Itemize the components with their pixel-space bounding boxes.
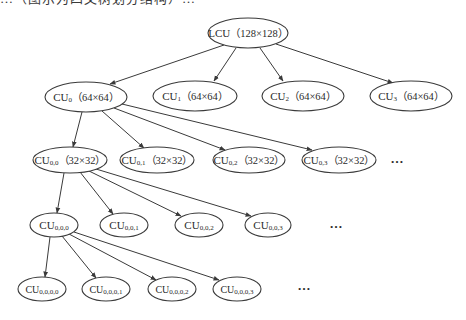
- node-label: CU2（64×64）: [270, 90, 336, 103]
- node-cu0002: CU0,0,0,2: [148, 277, 196, 301]
- edge-arrow-lcu-to-cu2: [260, 48, 283, 81]
- node-cu002: CU0,0,2: [175, 213, 223, 237]
- edge-arrow-cu000-to-cu0000: [45, 237, 50, 277]
- node-label: CU0,1（32×32）: [122, 154, 193, 167]
- node-cu0: CU0（64×64）: [45, 82, 127, 112]
- cu-quadtree-diagram: LCU（128×128）CU0（64×64）CU1（64×64）CU2（64×6…: [0, 0, 466, 320]
- node-cu01: CU0,1（32×32）: [120, 147, 194, 173]
- edge-arrow-lcu-to-cu0: [110, 45, 224, 84]
- edge-arrow-lcu-to-cu3: [276, 44, 393, 83]
- node-label: CU0（64×64）: [53, 91, 119, 104]
- edge-arrow-cu00-to-cu002: [89, 171, 181, 216]
- node-cu0001: CU0,0,0,1: [82, 277, 130, 301]
- more-level4-ellipsis: …: [298, 278, 311, 293]
- node-cu000: CU0,0,0: [30, 213, 78, 237]
- node-cu3: CU3（64×64）: [370, 81, 452, 111]
- node-cu02: CU0,2（32×32）: [213, 147, 285, 173]
- edge-arrow-cu0-to-cu03: [122, 104, 312, 150]
- more-level3-ellipsis: …: [330, 216, 343, 231]
- node-label: CU0,0（32×32）: [35, 154, 106, 167]
- edge-arrow-cu000-to-cu0002: [69, 234, 156, 280]
- edge-arrow-cu00-to-cu000: [57, 173, 64, 213]
- edge-arrow-cu000-to-cu0001: [62, 236, 96, 278]
- node-cu0000: CU0,0,0,0: [18, 277, 66, 301]
- more-level2-ellipsis: …: [391, 151, 404, 166]
- edge-arrow-cu00-to-cu003: [96, 169, 251, 216]
- nodes-layer: LCU（128×128）CU0（64×64）CU1（64×64）CU2（64×6…: [18, 18, 452, 301]
- edge-arrow-cu000-to-cu0003: [74, 232, 219, 280]
- node-cu00: CU0,0（32×32）: [33, 147, 107, 173]
- node-label: CU0,2（32×32）: [214, 154, 285, 167]
- edge-arrow-lcu-to-cu1: [214, 48, 236, 81]
- edge-arrow-cu0-to-cu00: [73, 112, 82, 147]
- node-label: CU3（64×64）: [378, 90, 444, 103]
- node-label: CU1（64×64）: [162, 90, 228, 103]
- edge-arrow-cu0-to-cu02: [114, 108, 225, 150]
- node-label: CU0,3（32×32）: [304, 154, 375, 167]
- node-lcu: LCU（128×128）: [208, 18, 288, 48]
- node-cu1: CU1（64×64）: [153, 81, 237, 111]
- node-cu03: CU0,3（32×32）: [302, 147, 376, 173]
- node-label: LCU（128×128）: [208, 27, 287, 39]
- node-cu0003: CU0,0,0,3: [213, 277, 261, 301]
- node-cu003: CU0,0,3: [245, 213, 291, 237]
- node-cu001: CU0,0,1: [100, 213, 148, 237]
- node-cu2: CU2（64×64）: [262, 81, 344, 111]
- edge-arrow-cu00-to-cu001: [80, 172, 113, 214]
